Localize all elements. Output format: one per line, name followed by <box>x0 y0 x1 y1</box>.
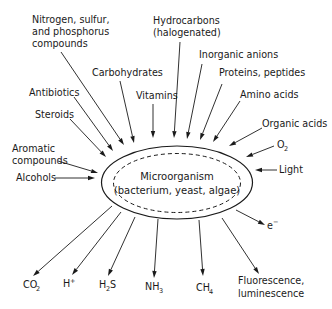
label-steroids: Steroids <box>35 109 74 120</box>
arrow-inorganic-anions <box>186 64 202 139</box>
arrow-co2 <box>33 206 112 276</box>
label-organic-acids: Organic acids <box>262 118 327 129</box>
arrow-antibiotics <box>74 97 113 151</box>
arrow-steroids <box>70 119 106 157</box>
label-hydrocarbons: Hydrocarbons (halogenated) <box>153 15 221 38</box>
label-nh3: NH 3 <box>145 281 163 295</box>
arrow-alcohols <box>55 176 95 180</box>
arrow-antibiotics-head-icon <box>107 144 113 151</box>
label-nitrogen: Nitrogen, sulfur, and phosphorus compoun… <box>32 14 110 49</box>
arrow-nitrogen <box>61 52 124 145</box>
arrow-nitrogen-head-icon <box>118 138 124 145</box>
arrow-organic-acids <box>229 128 262 146</box>
arrow-light <box>255 168 277 172</box>
arrow-inorganic-anions-head-icon <box>186 132 190 139</box>
label-alcohols: Alcohols <box>16 172 56 183</box>
label-fluorescence: Fluorescence, luminescence <box>238 275 304 299</box>
center-label-line1: Microorganism <box>140 171 214 182</box>
svg-text:luminescence: luminescence <box>238 288 304 299</box>
arrow-carbohydrates-shaft <box>120 81 132 136</box>
label-h-plus: H + <box>63 277 75 289</box>
arrow-h2s-head-icon <box>108 269 113 276</box>
label-aromatic: Aromatic compounds <box>12 143 68 166</box>
svg-text:4: 4 <box>209 288 213 296</box>
label-amino-acids: Amino acids <box>240 89 298 100</box>
arrow-fluorescence <box>222 218 259 274</box>
svg-text:Fluorescence,: Fluorescence, <box>238 275 304 286</box>
svg-text:Nitrogen, sulfur,: Nitrogen, sulfur, <box>32 14 110 25</box>
svg-text:Hydrocarbons: Hydrocarbons <box>153 15 220 26</box>
label-light: Light <box>279 164 303 175</box>
arrow-h-plus <box>72 212 121 275</box>
arrow-electron <box>236 210 265 225</box>
svg-text:2: 2 <box>284 145 288 153</box>
arrow-inorganic-anions-shaft <box>188 64 202 132</box>
svg-text:NH: NH <box>145 281 159 292</box>
label-ch4: CH 4 <box>196 282 213 296</box>
label-proteins: Proteins, peptides <box>219 67 305 78</box>
label-carbohydrates: Carbohydrates <box>92 67 163 78</box>
svg-text:3: 3 <box>159 287 163 295</box>
arrow-hydrocarbons-head-icon <box>172 131 176 138</box>
arrow-o2-head-icon <box>246 152 253 157</box>
label-co2: CO 2 <box>23 279 40 293</box>
arrow-antibiotics-shaft <box>74 97 109 145</box>
arrow-aromatic <box>58 161 98 173</box>
svg-text:compounds: compounds <box>32 38 88 49</box>
arrow-fluorescence-shaft <box>222 218 255 268</box>
arrow-alcohols-head-icon <box>88 176 95 180</box>
arrow-ch4 <box>199 220 205 276</box>
svg-text:compounds: compounds <box>12 155 68 166</box>
svg-text:2: 2 <box>36 285 40 293</box>
arrow-ch4-head-icon <box>200 269 204 276</box>
arrow-h-plus-head-icon <box>72 268 78 275</box>
arrow-nh3 <box>152 219 158 278</box>
arrow-light-head-icon <box>255 168 262 172</box>
arrow-nh3-head-icon <box>152 271 156 278</box>
arrow-aromatic-head-icon <box>91 169 98 173</box>
arrow-amino-acids <box>213 101 240 142</box>
label-h2s: H 2 S <box>99 279 116 293</box>
arrow-electron-shaft <box>236 210 259 222</box>
arrow-o2 <box>246 146 274 157</box>
arrow-vitamins <box>151 104 155 138</box>
center-label-line2: (bacterium, yeast, algae) <box>114 185 240 196</box>
arrow-proteins-shaft <box>203 84 222 133</box>
arrow-carbohydrates <box>120 81 135 143</box>
svg-text:CH: CH <box>196 282 210 293</box>
arrow-amino-acids-head-icon <box>213 135 219 142</box>
arrow-o2-shaft <box>253 146 274 154</box>
cell-outer-boundary <box>102 146 253 219</box>
arrow-carbohydrates-head-icon <box>130 136 134 143</box>
arrow-fluorescence-head-icon <box>253 267 259 274</box>
arrow-ch4-shaft <box>199 220 203 269</box>
arrow-vitamins-head-icon <box>151 131 155 138</box>
svg-text:S: S <box>110 279 116 290</box>
arrow-nh3-shaft <box>154 219 158 271</box>
label-inorganic-anions: Inorganic anions <box>199 49 278 60</box>
arrow-proteins <box>200 84 222 140</box>
label-vitamins: Vitamins <box>136 90 178 101</box>
svg-text:(halogenated): (halogenated) <box>153 27 221 38</box>
arrow-h2s <box>108 217 135 276</box>
svg-text:and phosphorus: and phosphorus <box>32 26 109 37</box>
arrow-organic-acids-head-icon <box>229 141 236 146</box>
label-electron: e − <box>267 218 278 231</box>
svg-text:−: − <box>273 218 278 226</box>
svg-text:+: + <box>70 277 75 285</box>
arrow-amino-acids-shaft <box>217 101 240 136</box>
arrow-h-plus-shaft <box>76 212 121 269</box>
microorganism-diagram: Microorganism (bacterium, yeast, algae) … <box>0 0 332 309</box>
arrow-hydrocarbons-shaft <box>174 42 180 131</box>
label-antibiotics: Antibiotics <box>29 87 79 98</box>
arrow-proteins-head-icon <box>200 133 205 140</box>
arrow-h2s-shaft <box>111 217 135 270</box>
svg-text:Aromatic: Aromatic <box>12 143 55 154</box>
cell-inner-membrane <box>114 154 241 213</box>
arrow-electron-head-icon <box>258 220 265 225</box>
arrow-organic-acids-shaft <box>235 128 262 143</box>
arrow-steroids-shaft <box>70 119 101 152</box>
label-o2: O 2 <box>277 139 288 153</box>
arrow-co2-shaft <box>38 206 112 271</box>
